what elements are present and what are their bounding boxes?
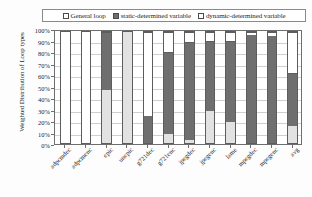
stacked-bar[interactable] xyxy=(267,31,278,144)
bar-segment xyxy=(268,36,277,143)
bar-segment xyxy=(82,32,91,143)
bar-segment xyxy=(144,32,153,116)
bar-segment xyxy=(123,32,132,143)
x-axis-tick-mark xyxy=(230,145,231,148)
stacked-bar[interactable] xyxy=(184,31,195,144)
y-axis-tick-mark xyxy=(51,53,54,54)
legend-label-static-determined-variable: static-determined variable xyxy=(121,12,191,20)
bar-segment xyxy=(61,32,70,143)
stacked-bar[interactable] xyxy=(246,31,257,144)
y-axis-tick-label: 90% xyxy=(38,38,50,45)
y-axis-tick-mark xyxy=(51,65,54,66)
y-axis-tick-mark xyxy=(51,76,54,77)
stacked-bar[interactable] xyxy=(225,31,236,144)
chart-figure: General loop static-determined variable … xyxy=(0,0,312,197)
stacked-bar[interactable] xyxy=(205,31,216,144)
bar-segment xyxy=(102,90,111,143)
bar-group xyxy=(246,31,257,144)
y-axis-tick-mark xyxy=(51,30,54,31)
bar-segment xyxy=(185,42,194,140)
bar-group xyxy=(122,31,133,144)
y-axis-tick-label: 30% xyxy=(38,107,50,114)
y-axis-tick-mark xyxy=(51,99,54,100)
x-axis-tick-label: mpegenc xyxy=(257,146,279,168)
bar-segment xyxy=(185,32,194,42)
bar-group xyxy=(143,31,154,144)
y-axis-tick-label: 100% xyxy=(35,27,50,34)
legend-label-dynamic-determined-variable: dynamic-determined variable xyxy=(206,12,286,20)
x-axis-tick-mark xyxy=(126,145,127,148)
bar-segment xyxy=(206,32,215,41)
y-axis-tick-label: 60% xyxy=(38,73,50,80)
y-axis-tick-label: 40% xyxy=(38,96,50,103)
bar-segment xyxy=(144,116,153,143)
y-axis-tick-mark xyxy=(51,134,54,135)
bar-segment xyxy=(288,126,297,143)
bar-segment xyxy=(206,111,215,143)
bar-group xyxy=(101,31,112,144)
y-axis-tick-label: 80% xyxy=(38,50,50,57)
y-axis-tick-label: 70% xyxy=(38,61,50,68)
x-axis-tick-label: lame xyxy=(224,146,238,160)
bar-segment xyxy=(226,41,235,122)
x-axis-tick-label: g721dec xyxy=(134,146,155,167)
y-axis-title: Weighted Distribution of Loop types xyxy=(18,12,26,152)
bar-group xyxy=(225,31,236,144)
legend-entry-static-determined-variable: static-determined variable xyxy=(113,12,191,20)
x-axis-tick-mark xyxy=(64,145,65,148)
y-axis-tick-label: 10% xyxy=(38,130,50,137)
y-axis-tick-mark xyxy=(51,42,54,43)
bar-segment xyxy=(288,73,297,126)
bar-segment xyxy=(226,122,235,143)
y-axis-tick-label: 0% xyxy=(41,142,50,149)
x-axis-tick-label: mpegdec xyxy=(237,146,259,168)
bar-group xyxy=(184,31,195,144)
x-axis-tick-label: unepic xyxy=(117,146,134,163)
stacked-bar[interactable] xyxy=(101,31,112,144)
stacked-bar[interactable] xyxy=(81,31,92,144)
x-axis-tick-label: avg xyxy=(288,146,300,158)
x-axis-tick-label: jpegdec xyxy=(177,146,196,165)
x-axis-tick-mark xyxy=(292,145,293,148)
x-axis-tick-label: epic xyxy=(101,146,114,159)
legend-swatch-general-loop xyxy=(63,13,69,19)
bar-segment xyxy=(102,32,111,90)
plot-area xyxy=(54,30,302,145)
x-axis-tick-mark xyxy=(250,145,251,148)
bar-series-container xyxy=(55,31,301,144)
x-axis-tick-mark xyxy=(106,145,107,148)
bar-segment xyxy=(206,41,215,111)
x-axis-tick-mark xyxy=(85,145,86,148)
x-axis-tick-mark xyxy=(168,145,169,148)
bar-segment xyxy=(288,32,297,73)
bar-group xyxy=(267,31,278,144)
legend-entry-general-loop: General loop xyxy=(63,12,106,20)
legend-entry-dynamic-determined-variable: dynamic-determined variable xyxy=(198,12,286,20)
x-axis-tick-mark xyxy=(147,145,148,148)
x-axis-tick-label: jpegenc xyxy=(198,146,217,165)
bar-group xyxy=(163,31,174,144)
stacked-bar[interactable] xyxy=(287,31,298,144)
chart-legend: General loop static-determined variable … xyxy=(42,9,306,22)
y-axis-tick-label: 20% xyxy=(38,119,50,126)
y-axis-tick-labels: 100%90%80%70%60%50%40%30%20%10%0% xyxy=(26,30,52,145)
bar-group xyxy=(287,31,298,144)
y-axis-tick-mark xyxy=(51,111,54,112)
bar-segment xyxy=(164,52,173,134)
bar-segment xyxy=(164,134,173,143)
stacked-bar[interactable] xyxy=(60,31,71,144)
bar-segment xyxy=(247,35,256,143)
stacked-bar[interactable] xyxy=(163,31,174,144)
legend-label-general-loop: General loop xyxy=(71,12,106,20)
legend-swatch-dynamic-determined-variable xyxy=(198,13,204,19)
stacked-bar[interactable] xyxy=(122,31,133,144)
bar-segment xyxy=(185,140,194,143)
y-axis-tick-mark xyxy=(51,145,54,146)
bar-segment xyxy=(164,32,173,52)
y-axis-tick-mark xyxy=(51,122,54,123)
stacked-bar[interactable] xyxy=(143,31,154,144)
x-axis-tick-label: adpcmenc xyxy=(69,146,93,170)
bar-group xyxy=(81,31,92,144)
x-axis-tick-label: adpcmdec xyxy=(49,146,73,170)
y-axis-tick-mark xyxy=(51,88,54,89)
